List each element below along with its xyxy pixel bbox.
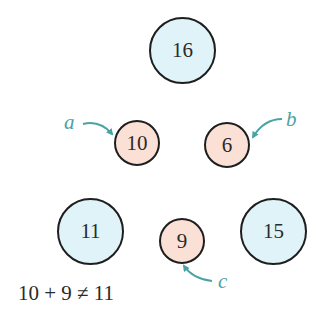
node-9: 9 xyxy=(159,218,205,264)
node-value: 16 xyxy=(172,38,193,63)
node-15: 15 xyxy=(240,198,307,265)
node-10: 10 xyxy=(114,120,160,166)
arrow-c-icon xyxy=(184,266,212,281)
node-6: 6 xyxy=(204,122,250,168)
node-value: 15 xyxy=(263,219,284,244)
arrow-a-icon xyxy=(83,123,112,134)
label-b: b xyxy=(286,109,297,130)
inequality-equation: 10 + 9 ≠ 11 xyxy=(18,283,114,304)
node-11: 11 xyxy=(57,198,124,265)
node-16: 16 xyxy=(149,17,216,84)
node-value: 9 xyxy=(177,229,188,254)
label-a: a xyxy=(64,112,75,133)
arrow-b-icon xyxy=(253,119,282,137)
node-value: 10 xyxy=(127,131,148,156)
node-value: 11 xyxy=(80,219,100,244)
label-c: c xyxy=(218,271,227,292)
node-value: 6 xyxy=(222,133,233,158)
